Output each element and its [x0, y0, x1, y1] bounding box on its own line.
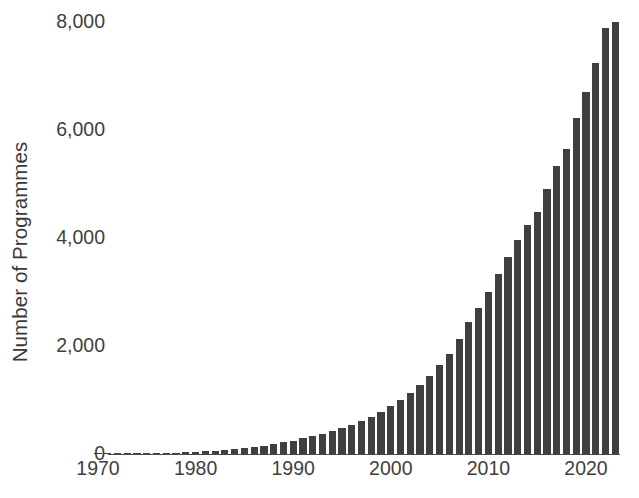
bar — [573, 118, 580, 454]
y-tick-label: 2,000 — [45, 336, 105, 356]
bar — [338, 428, 345, 454]
bar — [485, 292, 492, 454]
bar — [553, 166, 560, 454]
bar — [94, 453, 101, 454]
bar — [416, 385, 423, 454]
bar — [524, 225, 531, 455]
bar — [592, 63, 599, 455]
bar — [407, 393, 414, 454]
bar-chart-figure: Number of Programmes 02,0004,0006,0008,0… — [0, 0, 639, 498]
bar — [270, 444, 277, 454]
x-axis-line — [108, 454, 620, 455]
bar — [251, 447, 258, 454]
bar — [377, 412, 384, 454]
bar — [260, 446, 267, 454]
bar — [504, 257, 511, 454]
bar — [534, 212, 541, 454]
bar — [446, 354, 453, 454]
bar — [563, 149, 570, 454]
x-tick-label: 2000 — [369, 459, 412, 479]
bar — [465, 322, 472, 454]
y-axis-title-label: Number of Programmes — [8, 142, 32, 363]
bar — [612, 22, 619, 454]
x-tick-label: 2020 — [564, 459, 607, 479]
y-axis-tick-labels: 02,0004,0006,0008,000 — [45, 0, 105, 498]
x-axis-tick-labels: 197019801990200020102020 — [108, 459, 620, 498]
bar — [582, 92, 589, 454]
bar — [602, 28, 609, 454]
bar — [514, 240, 521, 454]
x-tick-label: 1980 — [174, 459, 217, 479]
bar — [299, 438, 306, 454]
bar — [475, 308, 482, 454]
bar — [290, 441, 297, 455]
bar — [280, 442, 287, 454]
bar — [358, 421, 365, 454]
bar — [495, 274, 502, 454]
bar — [309, 436, 316, 454]
bar — [456, 339, 463, 454]
plot-area — [108, 0, 620, 455]
x-tick-label: 1970 — [76, 459, 119, 479]
y-axis-title: Number of Programmes — [0, 0, 40, 498]
bar — [387, 406, 394, 454]
y-tick-label: 8,000 — [45, 12, 105, 32]
bar — [368, 417, 375, 454]
bar — [397, 400, 404, 454]
bar — [329, 431, 336, 454]
bar — [348, 425, 355, 454]
bar — [436, 365, 443, 454]
x-tick-label: 1990 — [271, 459, 314, 479]
x-tick-label: 2010 — [467, 459, 510, 479]
bar — [319, 434, 326, 454]
bar — [543, 189, 550, 454]
y-tick-label: 6,000 — [45, 120, 105, 140]
y-tick-label: 4,000 — [45, 228, 105, 248]
bar — [426, 376, 433, 454]
